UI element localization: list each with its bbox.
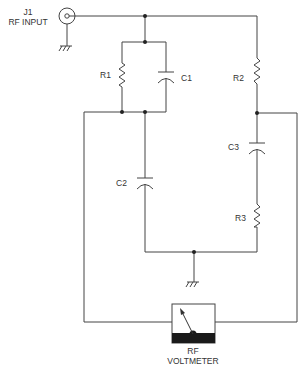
c1-label: C1	[181, 73, 192, 83]
resistor-r1-icon	[119, 63, 125, 87]
r3-label: R3	[235, 213, 246, 223]
r2-label: R2	[233, 73, 244, 83]
schematic-canvas	[0, 0, 305, 368]
resistor-r3-icon	[254, 204, 260, 227]
meter-label-line2: VOLTMETER	[155, 356, 231, 366]
connector-name-label: RF INPUT	[0, 17, 56, 27]
c3-label: C3	[228, 142, 239, 152]
rf-voltmeter-icon	[172, 304, 215, 343]
connector-ref-label: J1	[6, 7, 50, 17]
ground-icon	[59, 46, 72, 51]
meter-label-line1: RF	[163, 346, 223, 356]
rf-input-connector-icon	[59, 8, 75, 46]
wire-top	[69, 16, 257, 58]
r1-label: R1	[100, 70, 111, 80]
c2-label: C2	[116, 178, 127, 188]
ground-icon	[186, 282, 199, 287]
resistor-r2-icon	[254, 58, 260, 84]
